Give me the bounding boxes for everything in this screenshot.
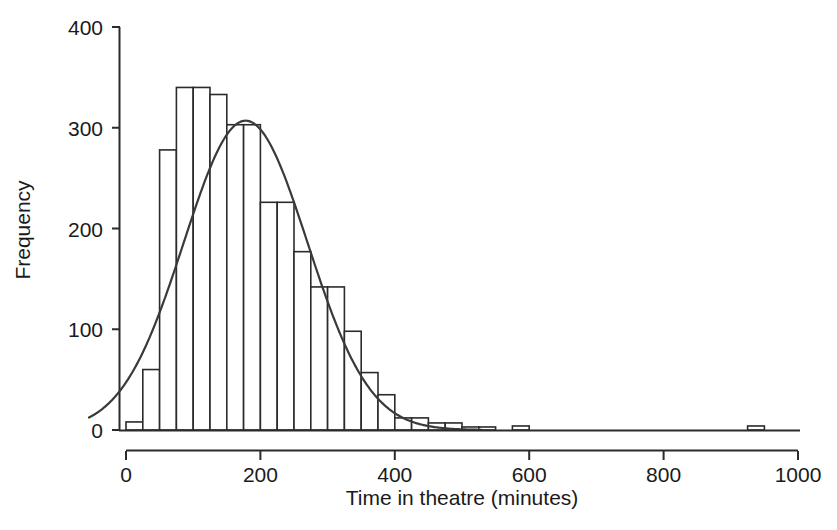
histogram-bar [294, 252, 311, 430]
y-axis-tick-labels: 0100200300400 [68, 16, 103, 442]
x-tick-label: 1000 [775, 463, 822, 486]
y-tick-label: 100 [68, 318, 103, 341]
histogram-bar [277, 202, 294, 430]
x-tick-label: 400 [377, 463, 412, 486]
histogram-bar [512, 426, 529, 430]
histogram-bar [311, 287, 328, 430]
histogram-bar [143, 370, 160, 430]
x-axis-title: Time in theatre (minutes) [346, 486, 579, 509]
histogram-bar [227, 125, 244, 430]
histogram-figure: 0100200300400 Frequency 0200400600800100… [0, 0, 837, 530]
histogram-bars [126, 87, 764, 430]
x-axis-tick-labels: 02004006008001000 [120, 463, 821, 486]
y-axis: 0100200300400 Frequency [11, 16, 120, 442]
x-axis-ticks [126, 451, 798, 460]
x-tick-label: 0 [120, 463, 132, 486]
y-tick-label: 400 [68, 16, 103, 39]
x-tick-label: 600 [512, 463, 547, 486]
y-tick-label: 0 [91, 419, 103, 442]
histogram-bar [126, 422, 143, 430]
x-axis: 02004006008001000 Time in theatre (minut… [120, 451, 821, 510]
y-tick-label: 300 [68, 117, 103, 140]
histogram-bar [748, 426, 765, 430]
histogram-bar [210, 95, 227, 430]
y-axis-title: Frequency [11, 180, 34, 280]
histogram-bar [193, 87, 210, 430]
histogram-bar [344, 331, 361, 430]
histogram-bar [244, 125, 261, 430]
x-tick-label: 800 [646, 463, 681, 486]
y-tick-label: 200 [68, 218, 103, 241]
x-tick-label: 200 [243, 463, 278, 486]
chart-canvas: 0100200300400 Frequency 0200400600800100… [0, 0, 837, 530]
histogram-bar [260, 202, 277, 430]
